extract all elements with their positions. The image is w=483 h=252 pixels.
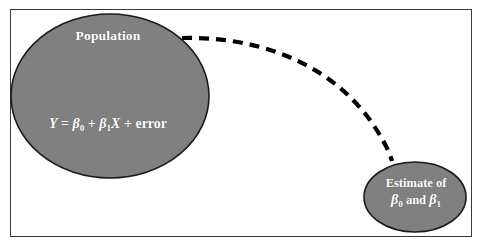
- estimate-ellipse: [364, 162, 466, 232]
- population-ellipse: [11, 14, 209, 178]
- diagram-canvas: [0, 0, 483, 252]
- dashed-curve-connector: [182, 38, 392, 161]
- figure-container: Population Y = β0 + β1X + error Estimate…: [0, 0, 483, 252]
